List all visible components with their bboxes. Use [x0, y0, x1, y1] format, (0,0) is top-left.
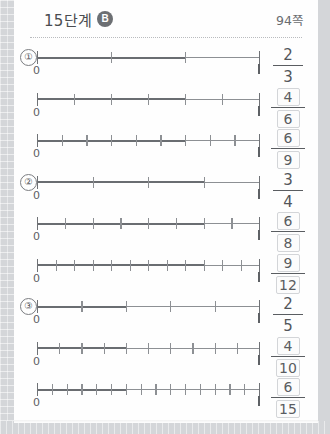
tick-mark	[244, 384, 245, 395]
axis-label-zero: 0	[33, 189, 40, 202]
problem-row: 0410	[14, 335, 318, 377]
fraction-answer-blank[interactable]: 410	[266, 336, 310, 377]
fraction-denominator[interactable]: 9	[277, 151, 300, 169]
axis-label-zero: 0	[33, 230, 40, 243]
fraction-bar	[271, 148, 305, 149]
axis-label-one	[258, 396, 260, 406]
problem-row: ③025	[14, 293, 318, 335]
tick-mark	[81, 301, 82, 312]
fraction-bar	[271, 107, 305, 108]
fraction-answer-blank[interactable]: 912	[266, 253, 310, 294]
worksheet-page: 15단계 B 94쪽 ①023046069②0340680912③0250410…	[14, 0, 318, 423]
tick-mark	[170, 301, 171, 312]
fraction-numerator[interactable]: 4	[277, 337, 300, 355]
tick-one	[259, 134, 260, 147]
tick-mark	[96, 384, 97, 395]
problem-row: 068	[14, 210, 318, 252]
page-header: 15단계 B 94쪽	[14, 0, 318, 36]
tick-mark	[204, 177, 205, 188]
tick-mark	[62, 135, 63, 146]
axis-label-zero: 0	[33, 147, 40, 160]
tick-mark	[155, 384, 156, 395]
tick-mark	[176, 218, 177, 229]
tick-mark	[126, 301, 127, 312]
page-number-label: 94쪽	[276, 10, 304, 29]
fraction-denominator[interactable]: 6	[277, 110, 300, 128]
tick-mark	[222, 260, 223, 271]
number-line: 0	[37, 140, 259, 141]
fraction-bar	[273, 65, 303, 66]
tick-mark	[81, 384, 82, 395]
problem-row: ②034	[14, 169, 318, 211]
number-line-filled-segment	[37, 181, 204, 183]
fraction-numerator: 2	[283, 295, 293, 313]
fraction-answer-blank[interactable]: 615	[266, 377, 310, 418]
problem-row: 0615	[14, 376, 318, 418]
tick-zero	[37, 217, 38, 230]
axis-label-one	[258, 313, 260, 323]
tick-mark	[167, 260, 168, 271]
tick-mark	[192, 343, 193, 354]
number-line: 0	[37, 348, 259, 349]
axis-label-one	[258, 355, 260, 365]
axis-label-one	[258, 272, 260, 282]
fraction-denominator[interactable]: 12	[276, 276, 300, 294]
fraction-bar	[271, 273, 305, 274]
fraction-numerator[interactable]: 4	[277, 88, 300, 106]
axis-label-zero: 0	[33, 396, 40, 409]
tick-mark	[111, 94, 112, 105]
fraction-numerator[interactable]: 6	[277, 378, 300, 396]
tick-mark	[141, 384, 142, 395]
fraction-numerator[interactable]: 6	[277, 129, 300, 147]
tick-mark	[148, 177, 149, 188]
tick-mark	[215, 384, 216, 395]
fraction-numerator[interactable]: 9	[277, 254, 300, 272]
page-title: 15단계	[44, 9, 92, 30]
tick-mark	[93, 218, 94, 229]
number-line: 0	[37, 57, 259, 58]
tick-zero	[37, 342, 38, 355]
fraction-numerator: 2	[283, 46, 293, 64]
tick-mark	[229, 384, 230, 395]
fraction-denominator[interactable]: 10	[276, 359, 300, 377]
fraction-denominator: 5	[283, 317, 293, 335]
number-line: 0	[37, 265, 259, 266]
fraction-denominator: 3	[283, 68, 293, 86]
tick-mark	[59, 343, 60, 354]
fraction-bar	[271, 231, 305, 232]
tick-mark	[170, 343, 171, 354]
fraction-denominator[interactable]: 8	[277, 234, 300, 252]
number-line-filled-segment	[37, 264, 204, 266]
fraction-answer-blank[interactable]: 46	[266, 87, 310, 128]
tick-one	[259, 342, 260, 355]
axis-label-zero: 0	[33, 106, 40, 119]
tick-mark	[148, 343, 149, 354]
fraction-denominator[interactable]: 15	[276, 400, 300, 418]
tick-zero	[37, 300, 38, 313]
number-line: 0	[37, 99, 259, 100]
tick-mark	[234, 135, 235, 146]
fraction-bar	[273, 190, 303, 191]
tick-mark	[130, 260, 131, 271]
fraction-answer-blank[interactable]: 69	[266, 128, 310, 169]
tick-mark	[160, 135, 161, 146]
fraction-numerator[interactable]: 6	[277, 212, 300, 230]
tick-mark	[210, 135, 211, 146]
number-line: 0	[37, 306, 259, 307]
tick-mark	[200, 384, 201, 395]
tick-one	[259, 93, 260, 106]
fraction-bar	[271, 397, 305, 398]
fraction-numerator: 3	[283, 171, 293, 189]
tick-mark	[241, 260, 242, 271]
tick-mark	[222, 94, 223, 105]
tick-mark	[126, 384, 127, 395]
tick-one	[259, 176, 260, 189]
tick-mark	[56, 260, 57, 271]
tick-mark	[93, 177, 94, 188]
tick-mark	[215, 301, 216, 312]
fraction-answer-blank[interactable]: 68	[266, 211, 310, 252]
tick-mark	[93, 260, 94, 271]
tick-zero	[37, 51, 38, 64]
axis-label-zero: 0	[33, 313, 40, 326]
tick-mark	[111, 52, 112, 63]
